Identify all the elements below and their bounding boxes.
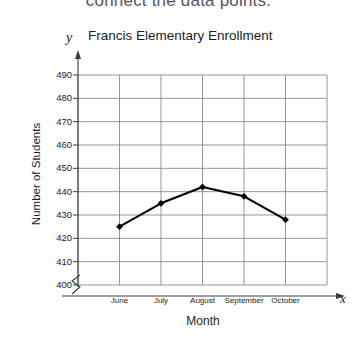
plot-area	[0, 0, 357, 338]
data-point-marker	[199, 184, 206, 191]
vertical-gridlines	[78, 75, 327, 285]
x-axis-arrow-icon	[336, 293, 345, 299]
chart-figure: Francis Elementary Enrollment y x Number…	[0, 0, 357, 338]
y-axis-arrow-icon	[75, 50, 81, 59]
